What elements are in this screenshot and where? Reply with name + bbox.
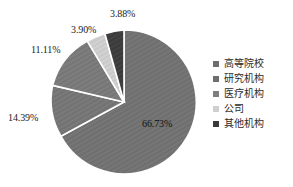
pie-label-other-institution: 3.88% xyxy=(110,8,135,19)
legend-swatch-icon xyxy=(213,61,219,67)
pie-chart: 66.73% 14.39% 11.11% 3.90% 3.88% 高等院校 研究… xyxy=(0,0,293,187)
legend-swatch-icon xyxy=(213,91,219,97)
chart-legend: 高等院校 研究机构 医疗机构 公司 其他机构 xyxy=(213,56,293,131)
legend-item-medical-institution[interactable]: 医疗机构 xyxy=(213,86,293,101)
legend-item-label: 研究机构 xyxy=(224,73,264,84)
pie-label-higher-education: 66.73% xyxy=(142,118,172,129)
legend-item-higher-education[interactable]: 高等院校 xyxy=(213,56,293,71)
pie-label-medical-institution: 11.11% xyxy=(31,44,61,55)
legend-item-research-institute[interactable]: 研究机构 xyxy=(213,71,293,86)
legend-swatch-icon xyxy=(213,76,219,82)
legend-item-label: 高等院校 xyxy=(224,58,264,69)
pie-label-company: 3.90% xyxy=(71,24,96,35)
legend-swatch-icon xyxy=(213,121,219,127)
legend-item-company[interactable]: 公司 xyxy=(213,101,293,116)
legend-item-other-institution[interactable]: 其他机构 xyxy=(213,116,293,131)
legend-item-label: 公司 xyxy=(224,103,244,114)
legend-item-label: 医疗机构 xyxy=(224,88,264,99)
legend-swatch-icon xyxy=(213,106,219,112)
pie-label-research-institute: 14.39% xyxy=(8,112,38,123)
legend-item-label: 其他机构 xyxy=(224,118,264,129)
